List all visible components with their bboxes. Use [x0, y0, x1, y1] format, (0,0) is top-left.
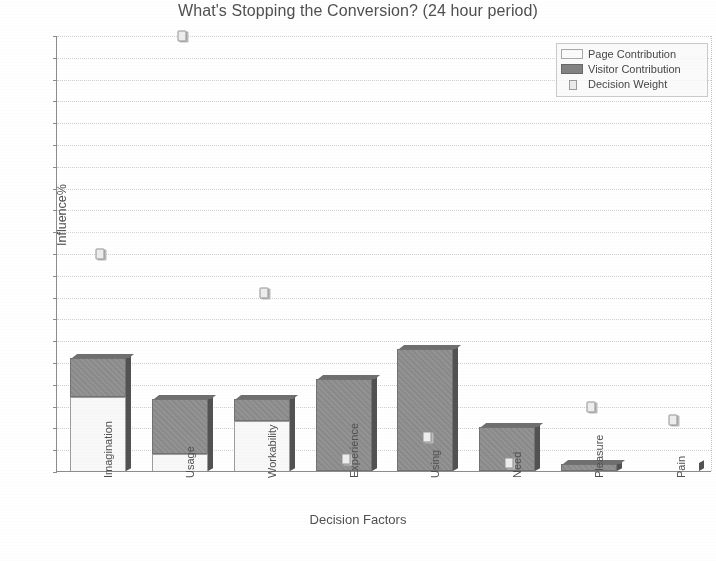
legend-item[interactable]: Page Contribution [561, 47, 703, 61]
y-tick-mark [53, 58, 57, 59]
gridline [57, 101, 711, 102]
legend-item[interactable]: Visitor Contribution [561, 62, 703, 76]
decision-weight-marker[interactable] [587, 401, 596, 412]
bar-top-face [72, 354, 134, 358]
y-tick-mark [53, 319, 57, 320]
y-tick-mark [53, 428, 57, 429]
bar-side-shadow [208, 396, 213, 471]
decision-weight-marker[interactable] [669, 414, 678, 425]
x-tick-label-need: Need [511, 452, 523, 478]
bar-side-shadow [699, 460, 704, 471]
gridline [57, 363, 711, 364]
bar-side-shadow [453, 346, 458, 471]
y-tick-mark [53, 385, 57, 386]
gridline [57, 276, 711, 277]
bar-top-face [481, 423, 543, 427]
gridline [57, 123, 711, 124]
y-tick-mark [53, 407, 57, 408]
y-tick-mark [53, 80, 57, 81]
y-axis-label: Influence% [55, 184, 69, 246]
bar-top-face [399, 345, 461, 349]
x-tick-label-workability: Workability [266, 424, 278, 478]
y-tick-mark [53, 254, 57, 255]
bar-using[interactable] [397, 349, 453, 471]
y-tick-mark [53, 341, 57, 342]
decision-weight-swatch [561, 79, 583, 89]
legend-item[interactable]: Decision Weight [561, 77, 703, 91]
bar-side-shadow [372, 377, 377, 471]
y-tick-mark [53, 101, 57, 102]
y-tick-mark [53, 123, 57, 124]
decision-weight-marker[interactable] [95, 249, 104, 260]
legend-label: Page Contribution [588, 48, 676, 60]
x-tick-label-pain: Pain [675, 456, 687, 478]
segment-visitor-contribution [561, 464, 617, 471]
gridline [57, 145, 711, 146]
chart-title: What's Stopping the Conversion? (24 hour… [0, 2, 716, 20]
decision-weight-marker[interactable] [423, 432, 432, 443]
segment-page-contribution [70, 397, 126, 471]
decision-weight-marker[interactable] [259, 288, 268, 299]
bar-imagination[interactable] [70, 358, 126, 471]
bar-workability[interactable] [234, 399, 290, 471]
segment-visitor-contribution [234, 399, 290, 421]
segment-visitor-contribution [70, 358, 126, 397]
y-tick-mark [53, 167, 57, 168]
legend-label: Visitor Contribution [588, 63, 681, 75]
x-tick-label-using: Using [429, 450, 441, 478]
segment-visitor-contribution [397, 349, 453, 471]
gridline [57, 319, 711, 320]
segment-page-contribution [152, 454, 208, 471]
chart-legend: Page ContributionVisitor ContributionDec… [556, 43, 708, 97]
bar-side-shadow [535, 425, 540, 471]
bar-top-face [318, 375, 380, 379]
gridline [57, 167, 711, 168]
gridline [57, 254, 711, 255]
x-axis-label: Decision Factors [0, 512, 716, 527]
x-tick-label-pleasure: Pleasure [593, 435, 605, 478]
plot-right-border [711, 36, 712, 471]
segment-visitor-contribution [152, 399, 208, 454]
legend-label: Decision Weight [588, 78, 667, 90]
y-tick-mark [53, 145, 57, 146]
bar-top-face [154, 395, 216, 399]
y-tick-mark [53, 450, 57, 451]
bar-usage[interactable] [152, 399, 208, 471]
gridline [57, 385, 711, 386]
bar-pleasure[interactable] [561, 464, 617, 471]
segment-page-contribution [234, 421, 290, 471]
bar-side-shadow [126, 355, 131, 471]
y-tick-mark [53, 298, 57, 299]
bar-top-face [236, 395, 298, 399]
gridline [57, 232, 711, 233]
gridline [57, 210, 711, 211]
page-contribution-swatch [561, 49, 583, 59]
decision-weight-marker[interactable] [177, 31, 186, 42]
gridline [57, 298, 711, 299]
plot-area: 1009590858075706560555045403530252015105… [56, 36, 711, 472]
visitor-contribution-swatch [561, 64, 583, 74]
y-tick-mark [53, 36, 57, 37]
x-tick-label-imagination: Imagination [102, 421, 114, 478]
x-tick-label-usage: Usage [184, 446, 196, 478]
gridline [57, 36, 711, 37]
bar-side-shadow [290, 396, 295, 471]
x-tick-label-experience: Experience [348, 423, 360, 478]
y-tick-mark [53, 363, 57, 364]
y-tick-mark [53, 276, 57, 277]
y-tick-mark [53, 472, 57, 473]
gridline [57, 189, 711, 190]
gridline [57, 341, 711, 342]
